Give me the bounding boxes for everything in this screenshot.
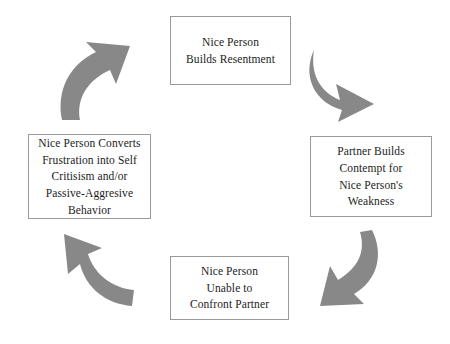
node-box-nice-person-builds-resentment: Nice Person Builds Resentment — [170, 16, 291, 85]
node-label-converts: Nice Person Converts Frustration into Se… — [38, 135, 140, 218]
node-label-resentment: Nice Person Builds Resentment — [186, 34, 275, 67]
curved-arrow-bottom-left-icon — [58, 232, 138, 312]
node-box-partner-builds-contempt: Partner Builds Contempt for Nice Person'… — [310, 136, 432, 217]
diagram-canvas: Nice Person Builds Resentment Partner Bu… — [0, 0, 450, 344]
node-box-nice-person-unable-to-confront-partner: Nice Person Unable to Confront Partner — [170, 256, 289, 320]
curved-arrow-top-right-icon — [306, 44, 382, 124]
node-box-nice-person-converts-frustration: Nice Person Converts Frustration into Se… — [28, 134, 151, 219]
node-label-contempt: Partner Builds Contempt for Nice Person'… — [337, 143, 405, 210]
curved-arrow-bottom-right-icon — [306, 226, 382, 310]
curved-arrow-top-left-icon — [58, 40, 138, 124]
node-label-confront: Nice Person Unable to Confront Partner — [190, 263, 269, 313]
